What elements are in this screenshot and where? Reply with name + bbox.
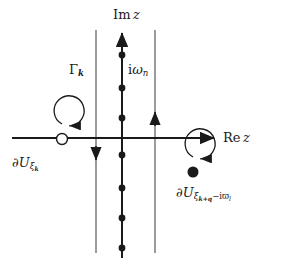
imaginary-axis-label-variable: z — [133, 7, 140, 22]
real-axis-label-prefix: Re — [223, 130, 240, 145]
left-contour-label-sub-subscript: k — [34, 165, 38, 172]
right-contour-label-subscript-group: ξk+q−iϖl — [194, 191, 231, 201]
matsubara-pole — [119, 245, 126, 252]
right-contour-label: ∂Uξk+q−iϖl — [176, 186, 231, 202]
matsubara-axis-label: iωn — [128, 63, 148, 78]
gamma-k-label-subscript: k — [78, 68, 84, 78]
right-contour-label-sub-tail-subscript: l — [229, 195, 231, 202]
right-contour-label-sub-subscript: k+q — [198, 195, 212, 202]
right-contour-circle — [185, 129, 215, 159]
left-contour-label: ∂Uξk — [12, 156, 39, 172]
matsubara-pole — [119, 185, 126, 192]
right-contour — [185, 129, 215, 178]
right-contour-label-prefix: ∂U — [176, 185, 194, 200]
left-contour-circle — [54, 96, 84, 126]
matsubara-axis-label-subscript: n — [143, 68, 149, 78]
matsubara-pole — [119, 115, 126, 122]
right-contour-filled-pole — [188, 167, 199, 178]
imaginary-axis-label-prefix: Im — [113, 7, 130, 22]
matsubara-axis-label-variable: ω — [132, 62, 143, 77]
left-contour-label-prefix: ∂U — [12, 155, 30, 170]
gamma-k-label: Γk — [69, 63, 84, 78]
left-contour-open-pole — [57, 134, 68, 145]
real-axis-label: Re z — [223, 131, 250, 144]
real-axis-label-variable: z — [243, 130, 250, 145]
matsubara-pole — [119, 152, 126, 159]
imaginary-axis-label: Im z — [113, 8, 140, 21]
right-contour-label-sub-tail: −iϖ — [212, 191, 229, 201]
matsubara-pole — [119, 52, 126, 59]
complex-plane-contour-figure: Im z Re z Γk iωn ∂Uξk ∂Uξk+q−iϖl — [0, 0, 282, 265]
matsubara-pole — [119, 85, 126, 92]
left-contour-label-subscript-group: ξk — [30, 161, 39, 171]
gamma-k-label-symbol: Γ — [69, 62, 78, 77]
matsubara-pole — [119, 215, 126, 222]
